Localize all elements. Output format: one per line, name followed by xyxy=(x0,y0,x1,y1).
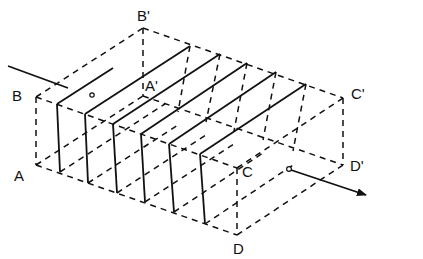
label-C: C xyxy=(242,163,253,180)
box-diagram: B' B A' A C' D' C D xyxy=(0,0,423,259)
label-C-prime: C' xyxy=(351,85,365,102)
label-A: A xyxy=(14,167,24,184)
label-B-prime: B' xyxy=(137,7,150,24)
incoming-ray xyxy=(8,66,68,88)
plane-5 xyxy=(169,72,276,212)
label-D-prime: D' xyxy=(350,157,364,174)
plane-3 xyxy=(113,54,220,193)
edge-C-Cp xyxy=(237,98,343,168)
plane-6 xyxy=(200,84,306,224)
edge-A-Ap xyxy=(36,96,143,165)
label-A-prime: A' xyxy=(145,77,158,94)
edge-Ap-Dp xyxy=(143,96,343,165)
label-D: D xyxy=(233,240,244,257)
entry-point-marker xyxy=(90,93,94,97)
label-B: B xyxy=(12,87,22,104)
ray xyxy=(8,66,366,195)
edge-D-Dp xyxy=(237,165,343,235)
exit-point-marker xyxy=(287,167,292,172)
plane-2 xyxy=(85,46,190,183)
edge-A-D xyxy=(36,165,237,235)
